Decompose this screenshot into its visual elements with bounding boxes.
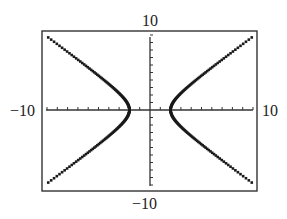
curve-point xyxy=(227,164,230,167)
curve-point xyxy=(234,48,237,51)
curve-point xyxy=(73,162,76,165)
curve-point xyxy=(239,45,242,48)
curve-point xyxy=(229,52,232,55)
curve-point xyxy=(237,46,240,49)
curve-point xyxy=(225,162,228,165)
curve-point xyxy=(73,55,76,58)
curve-point xyxy=(61,46,64,49)
curve-point xyxy=(68,165,71,168)
curve-point xyxy=(248,38,251,41)
curve-point xyxy=(242,175,245,178)
curve-point xyxy=(63,48,66,51)
curve-point xyxy=(229,165,232,168)
xmin-label: −10 xyxy=(10,103,35,119)
ymin-label: −10 xyxy=(132,196,157,212)
curve-point xyxy=(63,169,66,172)
curve-point xyxy=(53,177,56,180)
curve-point xyxy=(225,55,228,58)
xmax-label: 10 xyxy=(262,103,278,119)
curve-point xyxy=(248,179,251,182)
curve-point xyxy=(68,52,71,55)
curve-point xyxy=(56,175,59,178)
curve-point xyxy=(47,36,50,39)
curve-point xyxy=(70,164,73,167)
ymax-label: 10 xyxy=(142,13,158,29)
curve-point xyxy=(227,54,230,57)
curve-point xyxy=(242,43,245,46)
curve-point xyxy=(66,167,69,170)
plot-area xyxy=(0,0,287,219)
curve-point xyxy=(50,179,53,182)
curve-point xyxy=(47,181,50,184)
curve-point xyxy=(58,45,61,48)
curve-point xyxy=(239,173,242,176)
curve-point xyxy=(70,54,73,57)
curve-point xyxy=(250,36,253,39)
curve-point xyxy=(234,169,237,172)
curve-point xyxy=(237,171,240,174)
curve-point xyxy=(56,43,59,46)
curve-point xyxy=(58,173,61,176)
curve-point xyxy=(61,171,64,174)
curve-point xyxy=(250,181,253,184)
curve-point xyxy=(50,38,53,41)
curve-point xyxy=(232,167,235,170)
curve-point xyxy=(245,177,248,180)
curve-point xyxy=(53,40,56,43)
curve-point xyxy=(232,50,235,53)
curve-point xyxy=(66,50,69,53)
curve-point xyxy=(245,40,248,43)
